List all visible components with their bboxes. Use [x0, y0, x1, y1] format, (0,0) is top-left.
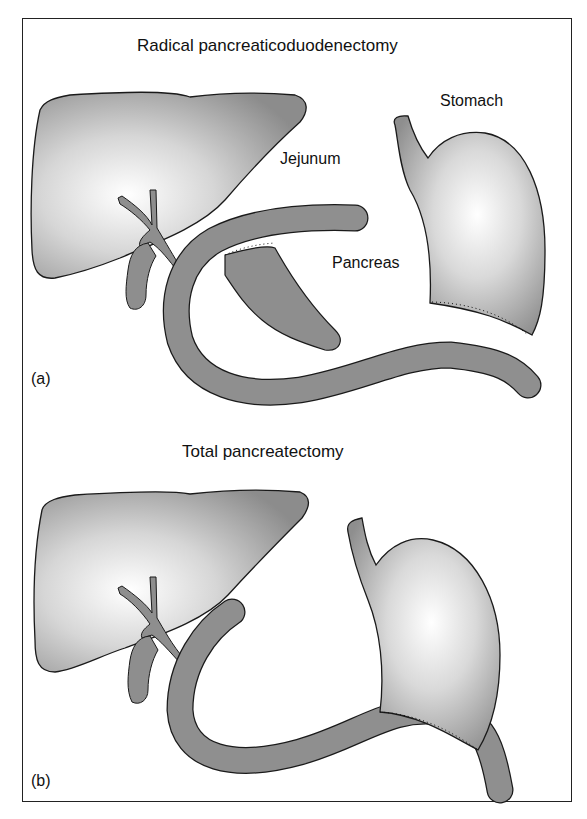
- panel-a-label: (a): [31, 370, 51, 388]
- panel-a-title: Radical pancreaticoduodenectomy: [137, 36, 398, 56]
- gallbladder-b: [128, 636, 158, 703]
- panel-a: [31, 92, 545, 392]
- pancreas-label: Pancreas: [332, 254, 400, 272]
- panel-b-label: (b): [31, 772, 51, 790]
- panel-b: [34, 490, 500, 790]
- anatomy-diagram: [0, 0, 587, 819]
- pancreas: [225, 247, 340, 350]
- stomach: [394, 116, 545, 335]
- panel-b-title: Total pancreatectomy: [182, 442, 344, 462]
- jejunum-label: Jejunum: [280, 150, 340, 168]
- stomach-label: Stomach: [440, 92, 503, 110]
